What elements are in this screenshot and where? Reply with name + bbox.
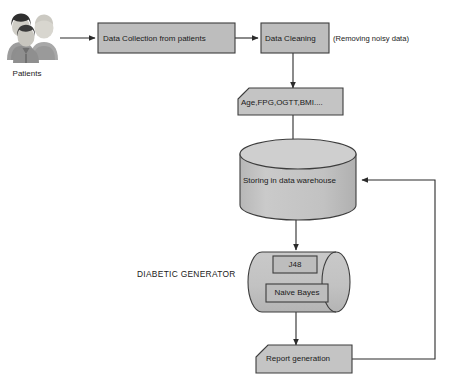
people-group-icon [7, 14, 58, 63]
node-attributes[interactable]: Age,FPG,OGTT,BMI.... [238, 88, 343, 115]
node-data-warehouse[interactable]: Storing in data warehouse [240, 139, 356, 220]
flowchart-diagram: Patients Data Collection from patients D… [0, 0, 450, 392]
edge-report-to-warehouse-feedback [352, 180, 435, 359]
naive-bayes-label: Naive Bayes [275, 288, 320, 297]
node-naive-bayes[interactable]: Naive Bayes [266, 284, 328, 302]
node-generator-cylinder[interactable]: J48 Naive Bayes [248, 252, 350, 312]
patients-actor-group: Patients [7, 14, 58, 79]
report-generation-label: Report generation [266, 354, 330, 363]
node-report-generation[interactable]: Report generation [256, 345, 352, 373]
patients-label: Patients [13, 69, 42, 78]
attributes-label: Age,FPG,OGTT,BMI.... [241, 98, 323, 107]
node-data-cleaning[interactable]: Data Cleaning [261, 23, 329, 53]
node-data-collection[interactable]: Data Collection from patients [98, 23, 235, 53]
data-cleaning-label: Data Cleaning [265, 34, 316, 43]
node-j48[interactable]: J48 [273, 256, 317, 273]
data-cleaning-note-label: (Removing noisy data) [333, 34, 409, 43]
diabetic-generator-label: DIABETIC GENERATOR [137, 269, 236, 279]
data-warehouse-label: Storing in data warehouse [243, 176, 337, 185]
j48-label: J48 [289, 260, 302, 269]
data-collection-label: Data Collection from patients [103, 34, 206, 43]
